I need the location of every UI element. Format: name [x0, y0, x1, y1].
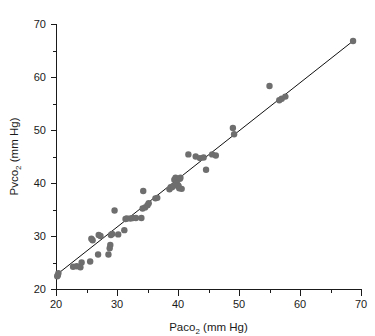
x-tick-label: 60: [294, 298, 306, 310]
data-point: [121, 227, 127, 233]
y-axis-title: Pvco2 (mm Hg): [8, 117, 23, 195]
data-point: [203, 167, 209, 173]
x-tick-label: 20: [50, 298, 62, 310]
axes: 203040506070 203040506070: [34, 18, 367, 310]
y-tick-label: 30: [34, 230, 46, 242]
data-point: [213, 152, 219, 158]
y-tick-label: 60: [34, 71, 46, 83]
data-point: [95, 251, 101, 257]
x-axis-minor-ticks: [88, 290, 332, 294]
data-point: [177, 175, 183, 181]
x-tick-label: 70: [355, 298, 367, 310]
x-tick-label: 40: [172, 298, 184, 310]
data-point: [89, 237, 95, 243]
x-tick-label: 50: [233, 298, 245, 310]
data-point: [154, 195, 160, 201]
data-point: [185, 151, 191, 157]
data-point: [78, 259, 84, 265]
data-point: [350, 38, 356, 44]
data-point: [266, 83, 272, 89]
y-tick-label: 40: [34, 177, 46, 189]
x-axis-tick-labels: 203040506070: [50, 298, 367, 310]
data-point: [138, 215, 144, 221]
data-point: [200, 154, 206, 160]
data-point: [105, 251, 111, 257]
data-point: [55, 270, 61, 276]
y-axis-tick-labels: 203040506070: [34, 18, 46, 295]
data-point: [111, 207, 117, 213]
data-point: [133, 215, 139, 221]
data-point: [146, 200, 152, 206]
y-axis-minor-ticks: [53, 52, 57, 264]
y-tick-label: 50: [34, 124, 46, 136]
data-point: [97, 233, 103, 239]
data-point: [107, 242, 113, 248]
data-point: [282, 93, 288, 99]
x-tick-label: 30: [111, 298, 123, 310]
x-axis-title: Paco2 (mm Hg): [169, 321, 248, 336]
data-point: [87, 258, 93, 264]
scatter-plot-svg: 203040506070 203040506070 Paco2 (mm Hg) …: [0, 0, 375, 336]
data-point: [115, 231, 121, 237]
data-point: [231, 131, 237, 137]
y-axis-title-text: Pvco2 (mm Hg): [8, 117, 23, 195]
y-tick-label: 70: [34, 18, 46, 30]
chart-figure: 203040506070 203040506070 Paco2 (mm Hg) …: [0, 0, 375, 336]
y-tick-label: 20: [34, 283, 46, 295]
data-point: [109, 231, 115, 237]
x-axis-title-text: Paco2 (mm Hg): [169, 321, 248, 336]
data-point: [178, 186, 184, 192]
data-point: [140, 188, 146, 194]
data-point: [230, 125, 236, 131]
